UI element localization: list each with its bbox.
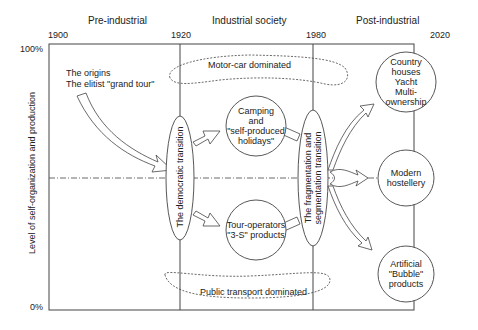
node-tour-operators: Tour-operators "3-S" products	[226, 200, 286, 260]
node-camping-l3: "self-produced	[227, 126, 285, 136]
democratic-transition-label: The democratic transition	[175, 117, 185, 237]
era-pre-industrial: Pre-industrial	[88, 15, 147, 26]
y-axis-top: 100%	[20, 44, 43, 54]
year-1920: 1920	[171, 30, 191, 40]
node-artificial-l1: Artificial	[390, 259, 422, 269]
origins-arrow	[77, 93, 172, 172]
origins-line1: The origins	[66, 68, 111, 78]
fragmentation-line2: segmentation transition	[313, 108, 323, 248]
arrow-to-country	[328, 104, 374, 170]
y-axis-label: Level of self-organization and productio…	[27, 73, 37, 273]
node-country-l2: Yacht	[395, 77, 417, 87]
node-modern-l2: hostellery	[387, 178, 426, 188]
year-2020: 2020	[430, 30, 450, 40]
node-country-l3: Multi-ownership	[376, 87, 436, 107]
y-axis-bottom: 0%	[30, 302, 43, 312]
node-country-l1: Country houses	[376, 57, 436, 77]
node-camping-l1: Camping	[238, 106, 274, 116]
fragmentation-transition-label: The fragmentation and segmentation trans…	[303, 108, 323, 248]
node-camping-l4: holidays"	[238, 136, 274, 146]
node-tour-l1: Tour-operators	[227, 220, 286, 230]
node-artificial-bubble: Artificial "Bubble" products	[378, 246, 434, 302]
node-camping: Camping and "self-produced holidays"	[226, 96, 286, 156]
era-post-industrial: Post-industrial	[356, 15, 419, 26]
node-modern-hostellery: Modern hostellery	[378, 150, 434, 206]
node-camping-l2: and	[248, 116, 263, 126]
arrow-to-tour	[193, 211, 220, 226]
arrow-to-artificial	[328, 186, 372, 250]
year-1900: 1900	[48, 30, 68, 40]
node-country-houses: Country houses Yacht Multi-ownership	[376, 52, 436, 112]
node-artificial-l2: "Bubble"	[389, 269, 423, 279]
arrow-to-modern	[330, 169, 368, 186]
public-transport-label: Public transport dominated	[200, 287, 307, 297]
origins-line2: The elitist "grand tour"	[66, 79, 154, 89]
arrow-to-camping	[193, 131, 220, 146]
node-artificial-l3: products	[389, 279, 424, 289]
node-modern-l1: Modern	[391, 168, 422, 178]
motor-car-label: Motor-car dominated	[208, 60, 291, 70]
era-industrial: Industrial society	[212, 15, 286, 26]
fragmentation-line1: The fragmentation and	[303, 108, 313, 248]
node-tour-l2: "3-S" products	[227, 230, 284, 240]
year-1980: 1980	[306, 30, 326, 40]
